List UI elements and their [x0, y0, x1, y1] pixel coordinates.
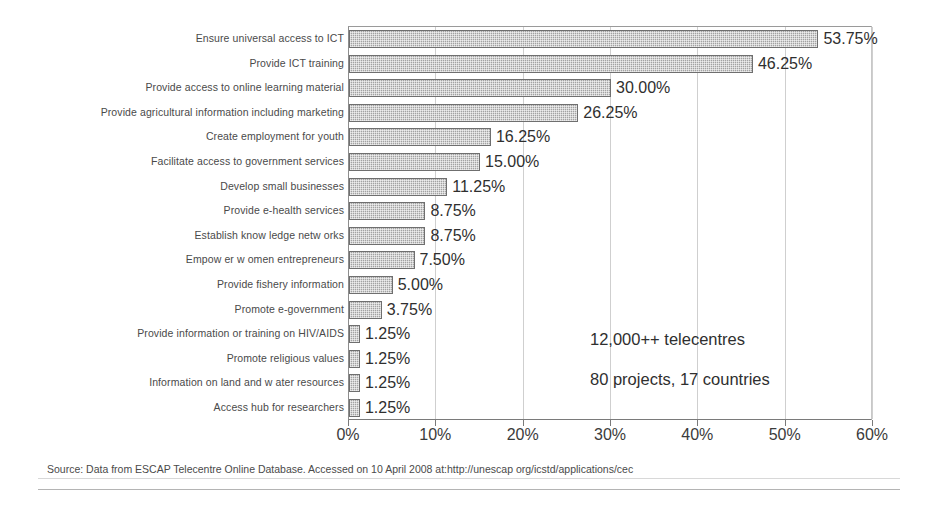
telecentre-services-bar-chart: Ensure universal access to ICTProvide IC…: [0, 0, 927, 517]
bar-row: 16.25%: [349, 125, 871, 150]
bar-value-label: 1.25%: [365, 348, 410, 369]
bar: [349, 350, 360, 368]
bar-value-label: 7.50%: [420, 249, 465, 270]
bar-value-label: 11.25%: [452, 176, 505, 197]
bar: [349, 374, 360, 392]
bar: [349, 325, 360, 343]
divider-bottom: [38, 489, 900, 490]
bar-value-label: 1.25%: [365, 323, 410, 344]
bar-value-label: 15.00%: [485, 151, 539, 172]
x-tick-label: 50%: [769, 426, 801, 444]
bar: [349, 153, 480, 171]
bar-row: 26.25%: [349, 101, 871, 126]
source-note: Source: Data from ESCAP Telecentre Onlin…: [47, 463, 633, 475]
category-label: Provide access to online learning materi…: [14, 75, 344, 100]
category-label: Provide ICT training: [14, 51, 344, 76]
bar-value-label: 5.00%: [398, 274, 443, 295]
bar: [349, 202, 425, 220]
bar-row: 5.00%: [349, 273, 871, 298]
category-label: Provide fishery information: [14, 272, 344, 297]
bar: [349, 276, 393, 294]
divider-top: [38, 478, 900, 479]
category-label: Ensure universal access to ICT: [14, 26, 344, 51]
category-label: Facilitate access to government services: [14, 149, 344, 174]
bar-row: 7.50%: [349, 248, 871, 273]
category-label: Create employment for youth: [14, 124, 344, 149]
bar: [349, 301, 382, 319]
bar-row: 15.00%: [349, 150, 871, 175]
category-label: Provide e-health services: [14, 198, 344, 223]
bar: [349, 251, 415, 269]
bar-row: 46.25%: [349, 52, 871, 77]
bar-value-label: 26.25%: [583, 102, 637, 123]
bar: [349, 55, 753, 73]
bar-value-label: 3.75%: [387, 299, 432, 320]
bar-row: 11.25%: [349, 175, 871, 200]
bar: [349, 30, 818, 48]
category-label: Develop small businesses: [14, 174, 344, 199]
bar: [349, 227, 425, 245]
bar-value-label: 8.75%: [430, 225, 475, 246]
bar-row: 3.75%: [349, 298, 871, 323]
category-label: Empow er w omen entrepreneurs: [14, 247, 344, 272]
annotation-text: 12,000++ telecentres: [590, 330, 745, 349]
bar-value-label: 46.25%: [758, 53, 812, 74]
annotation-text: 80 projects, 17 countries: [590, 370, 770, 389]
bar: [349, 128, 491, 146]
bar: [349, 79, 611, 97]
bar-value-label: 16.25%: [496, 126, 550, 147]
x-tick-label: 10%: [419, 426, 451, 444]
category-label: Promote e-government: [14, 297, 344, 322]
category-label: Establish know ledge netw orks: [14, 223, 344, 248]
bar: [349, 399, 360, 417]
gridline-60%: [872, 27, 873, 419]
bar-row: 1.25%: [349, 396, 871, 421]
category-label: Information on land and w ater resources: [14, 370, 344, 395]
bar: [349, 104, 578, 122]
bar-row: 8.75%: [349, 199, 871, 224]
category-label: Promote religious values: [14, 346, 344, 371]
x-tick-label: 40%: [681, 426, 713, 444]
bar-value-label: 1.25%: [365, 372, 410, 393]
category-label: Provide information or training on HIV/A…: [14, 321, 344, 346]
category-label: Access hub for researchers: [14, 395, 344, 420]
bar-row: 1.25%: [349, 347, 871, 372]
bar-value-label: 8.75%: [430, 200, 475, 221]
x-tick-label: 60%: [856, 426, 888, 444]
bar-row: 53.75%: [349, 27, 871, 52]
bar-value-label: 1.25%: [365, 397, 410, 418]
bar-row: 8.75%: [349, 224, 871, 249]
bar-row: 30.00%: [349, 76, 871, 101]
category-label: Provide agricultural information includi…: [14, 100, 344, 125]
x-tick-label: 20%: [507, 426, 539, 444]
bar-value-label: 30.00%: [616, 77, 670, 98]
bar: [349, 178, 447, 196]
x-tick-label: 30%: [594, 426, 626, 444]
plot-area: 53.75%46.25%30.00%26.25%16.25%15.00%11.2…: [348, 26, 872, 420]
bar-value-label: 53.75%: [823, 28, 877, 49]
x-tick-label: 0%: [336, 426, 359, 444]
